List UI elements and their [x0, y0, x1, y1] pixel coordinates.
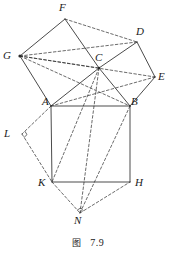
vertex-label-g: G	[3, 50, 11, 61]
edge-B-C	[99, 68, 130, 106]
edge-D-E	[137, 42, 155, 77]
edge-K-A	[51, 106, 52, 182]
right-angle-mark-group	[24, 131, 83, 211]
dash-A-L	[22, 106, 51, 134]
edge-C-A	[51, 68, 99, 106]
dash-B-N	[80, 106, 130, 213]
dash-C-K	[52, 68, 99, 182]
dot-at-G	[18, 54, 21, 57]
dash-K-N	[52, 182, 80, 213]
vertex-label-b: B	[131, 96, 138, 107]
caption-label: 图	[72, 238, 82, 248]
edge-F-C	[65, 19, 99, 68]
vertex-label-a: A	[42, 96, 49, 107]
dash-G-B	[20, 56, 130, 106]
dash-A-E	[51, 77, 155, 106]
edge-G-F	[20, 19, 65, 56]
vertex-label-n: N	[74, 215, 81, 226]
dot-at-C	[98, 67, 100, 69]
vertex-label-h: H	[135, 177, 143, 188]
vertex-label-d: D	[136, 26, 144, 37]
dash-C-N	[80, 68, 99, 213]
dash-G-E	[20, 56, 155, 77]
geometry-figure: FDGCEABLKHN 图7.9	[0, 0, 176, 255]
vertex-label-c: C	[95, 52, 102, 63]
caption-number: 7.9	[90, 237, 104, 248]
edge-C-D	[99, 42, 137, 68]
vertex-label-e: E	[158, 71, 165, 82]
geometry-canvas	[0, 0, 176, 255]
right-angle-at-L	[24, 131, 27, 137]
vertex-label-l: L	[4, 128, 10, 139]
dash-F-D	[65, 19, 137, 42]
dash-L-K	[22, 134, 52, 182]
vertex-label-k: K	[38, 177, 45, 188]
figure-caption: 图7.9	[0, 236, 176, 249]
vertex-label-f: F	[59, 2, 66, 13]
